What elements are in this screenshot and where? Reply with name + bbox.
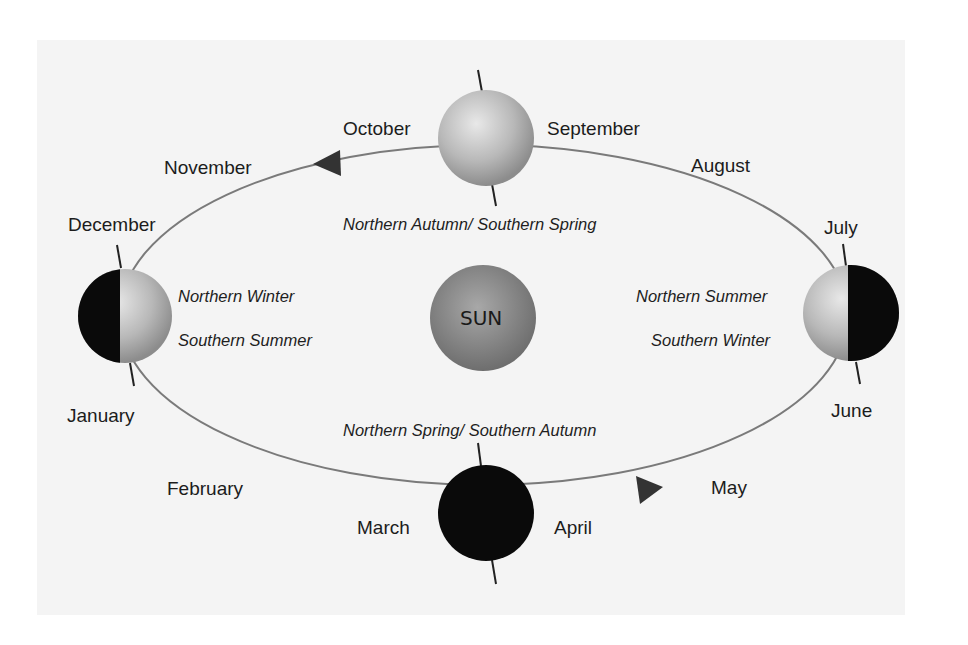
season-label-bottom: Northern Spring/ Southern Autumn bbox=[343, 422, 596, 439]
month-september: September bbox=[547, 119, 640, 138]
month-may: May bbox=[711, 478, 747, 497]
month-november: November bbox=[164, 158, 252, 177]
month-july: July bbox=[824, 218, 858, 237]
season-label-southern-summer: Southern Summer bbox=[178, 332, 312, 349]
season-label-northern-winter: Northern Winter bbox=[178, 288, 294, 305]
earth-globe-top-icon bbox=[438, 70, 534, 206]
month-october: October bbox=[343, 119, 411, 138]
month-august: August bbox=[691, 156, 750, 175]
sun-label: SUN bbox=[460, 308, 502, 328]
earth-globe-right-icon bbox=[803, 244, 899, 384]
month-june: June bbox=[831, 401, 872, 420]
earth-globe-bottom-icon bbox=[438, 443, 534, 584]
month-december: December bbox=[68, 215, 156, 234]
month-january: January bbox=[67, 406, 135, 425]
season-label-southern-winter: Southern Winter bbox=[651, 332, 770, 349]
direction-arrow-icon bbox=[313, 150, 341, 176]
direction-arrow-icon bbox=[636, 476, 663, 504]
month-march: March bbox=[357, 518, 410, 537]
season-label-top: Northern Autumn/ Southern Spring bbox=[343, 216, 596, 233]
season-label-northern-summer: Northern Summer bbox=[636, 288, 767, 305]
month-february: February bbox=[167, 479, 243, 498]
month-april: April bbox=[554, 518, 592, 537]
earth-globe-left-icon bbox=[78, 245, 172, 386]
